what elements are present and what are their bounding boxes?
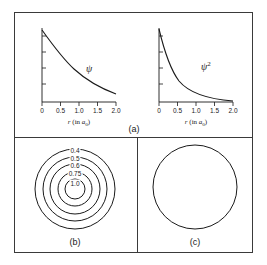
panel-c-boundary-svg: [137, 137, 253, 253]
plot-psi-squared-svg: [145, 24, 237, 114]
plot-psi: ψ 0 0.5 1.0 1.5 2.0 r (in a0): [28, 24, 120, 114]
panel-a-label: (a): [129, 124, 140, 134]
panel-b-label: (b): [70, 237, 81, 247]
contour-label-1: 0.5: [69, 155, 80, 162]
figure-orbital-representations: ψ 0 0.5 1.0 1.5 2.0 r (in a0): [0, 0, 267, 265]
boundary-surface-circle: [153, 145, 237, 229]
panel-b-contour-labels: 0.4 0.5 0.6 0.75 1.0: [14, 137, 137, 253]
panel-c-label: (c): [190, 237, 201, 247]
panel-a: ψ 0 0.5 1.0 1.5 2.0 r (in a0): [14, 12, 253, 137]
contour-label-0: 0.4: [69, 147, 80, 154]
plot-psi-xaxis-title: r (in a0): [68, 118, 90, 127]
plot-psi-svg: [28, 24, 120, 114]
psi-curve-label: ψ: [86, 62, 92, 74]
panel-c: (c): [137, 137, 253, 253]
psi-squared-decay-curve: [159, 29, 233, 101]
panel-b: 0.4 0.5 0.6 0.75 1.0 (b): [14, 137, 137, 253]
psi-decay-curve: [42, 30, 116, 94]
contour-label-2: 0.6: [69, 162, 80, 169]
contour-label-3: 0.75: [68, 170, 83, 177]
plot-psi-squared-xaxis-title: r (in a0): [185, 118, 207, 127]
psi-squared-curve-label: ψ2: [201, 60, 211, 72]
contour-label-4: 1.0: [69, 180, 80, 187]
plot-psi-squared: ψ2 0 0.5 1.0 1.5 2.0 r (in a0): [145, 24, 237, 114]
plot-psi-squared-xtick-labels: 0 0.5 1.0 1.5 2.0: [145, 107, 237, 117]
plot-psi-xtick-labels: 0 0.5 1.0 1.5 2.0: [28, 107, 120, 117]
